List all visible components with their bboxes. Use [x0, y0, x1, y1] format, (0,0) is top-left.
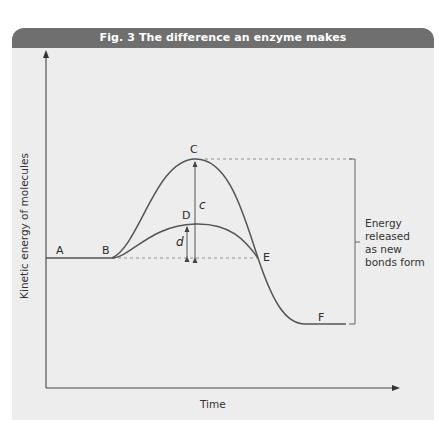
bracket-note-line-4: bonds form: [365, 256, 425, 269]
bracket-note-line-2: released: [365, 230, 425, 243]
y-axis-label: Kinetic energy of molecules: [18, 153, 30, 299]
label-f: F: [318, 311, 324, 324]
curve-with-enzyme: [112, 224, 258, 258]
bracket-note-line-1: Energy: [365, 217, 425, 230]
curve-without-enzyme: [112, 159, 346, 324]
label-e: E: [263, 251, 270, 264]
label-c-italic: c: [199, 198, 206, 212]
label-a: A: [56, 244, 64, 257]
bracket-note: Energy released as new bonds form: [365, 217, 425, 269]
bracket-note-line-3: as new: [365, 243, 425, 256]
label-d: D: [182, 209, 190, 222]
label-b: B: [102, 244, 110, 257]
label-c: C: [190, 143, 198, 156]
x-axis-label: Time: [200, 398, 226, 410]
y-axis-label-wrap: Kinetic energy of molecules: [4, 106, 44, 346]
label-d-italic: d: [176, 235, 184, 249]
energy-released-bracket: [349, 159, 360, 324]
